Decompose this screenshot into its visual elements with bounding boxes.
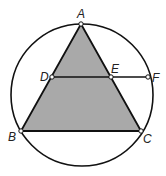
label-f: F [152, 71, 160, 85]
label-e: E [111, 62, 120, 76]
point-a [79, 22, 83, 26]
label-c: C [143, 132, 152, 146]
label-b: B [8, 130, 16, 144]
point-b [19, 129, 23, 133]
point-d [50, 75, 54, 79]
geometry-diagram: A B C D E F [0, 0, 166, 176]
label-d: D [40, 70, 49, 84]
point-f [146, 75, 150, 79]
label-a: A [76, 7, 85, 21]
